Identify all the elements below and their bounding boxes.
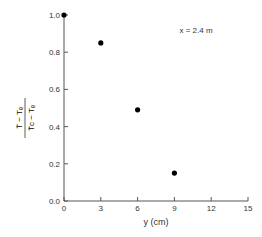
y-tick-label: 0.6 (49, 85, 61, 94)
y-tick-label: 0.8 (49, 48, 61, 57)
y-label-denominator: T̄c − Tₑ (27, 105, 36, 131)
data-points (61, 12, 177, 175)
x-ticks: 03691215 (62, 197, 253, 213)
x-axis-label: y (cm) (144, 217, 169, 227)
chart: 0.00.20.40.60.81.0 03691215 x = 2.4 m y … (0, 0, 262, 237)
x-tick-label: 0 (62, 204, 67, 213)
x-tick-label: 12 (207, 204, 216, 213)
x-tick-label: 3 (99, 204, 104, 213)
y-axis-label: T̄ − Tₑ T̄c − Tₑ (15, 98, 36, 138)
y-label-numerator: T̄ − Tₑ (15, 107, 24, 129)
x-tick-label: 15 (244, 204, 253, 213)
data-point (98, 40, 103, 45)
annotation: x = 2.4 m (179, 26, 212, 35)
y-tick-label: 0.4 (49, 123, 61, 132)
y-tick-label: 0.2 (49, 160, 61, 169)
data-point (61, 12, 66, 17)
data-point (172, 171, 177, 176)
y-tick-label: 1.0 (49, 11, 61, 20)
data-point (135, 107, 140, 112)
axes (64, 15, 248, 201)
y-ticks: 0.00.20.40.60.81.0 (49, 11, 68, 206)
x-tick-label: 6 (135, 204, 140, 213)
x-tick-label: 9 (172, 204, 177, 213)
y-tick-label: 0.0 (49, 197, 61, 206)
